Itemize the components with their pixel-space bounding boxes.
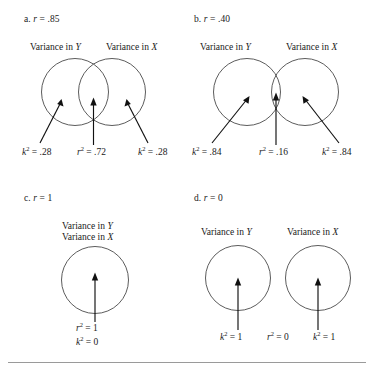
panel-b-value-left-eq: = .84 — [202, 147, 222, 157]
panel-d-arrow-right — [315, 278, 321, 331]
panel-b-value-right: k2 = .84 — [322, 147, 351, 157]
panel-a: a. r = .85 Variance in Y Variance in X — [0, 0, 187, 185]
panel-b-arrow-right — [303, 96, 340, 143]
panel-c-venn-graphic — [0, 185, 187, 335]
panel-c-value-bottom-exp: 2 — [80, 335, 83, 342]
panel-a-value-center-exp: 2 — [81, 145, 84, 152]
panel-a-venn-graphic — [0, 0, 187, 160]
panel-b-circle-x — [272, 59, 339, 126]
panel-d-value-center: r2 = 0 — [267, 332, 289, 342]
panel-b-value-left-exp: 2 — [196, 145, 199, 152]
panel-b-value-center-exp: 2 — [263, 145, 266, 152]
panel-b-circle-y — [214, 59, 281, 126]
panel-d-arrow-left — [235, 278, 241, 331]
panel-a-circle-y — [42, 59, 109, 126]
panel-b-arrow-left — [212, 96, 250, 143]
panel-a-value-left: k2 = .28 — [22, 147, 51, 157]
panel-b-value-right-exp: 2 — [326, 145, 329, 152]
panel-a-value-left-eq: = .28 — [32, 147, 52, 157]
panel-b-value-center-eq: = .16 — [268, 147, 288, 157]
panel-b-arrow-center — [273, 93, 279, 146]
panel-d-value-center-eq: = 0 — [276, 332, 288, 342]
panel-a-value-right-exp: 2 — [142, 145, 145, 152]
panel-a-circle-x — [79, 59, 146, 126]
panel-b-venn-graphic — [187, 0, 374, 160]
bottom-divider-rule — [8, 362, 366, 363]
panel-b-value-left: k2 = .84 — [192, 147, 221, 157]
panel-c-value-top-eq: = 1 — [85, 323, 97, 333]
venn-figure: a. r = .85 Variance in Y Variance in X — [0, 0, 374, 370]
panel-c: c. r = 1 Variance in Y Variance in X r2 … — [0, 185, 187, 370]
panel-c-value-top-exp: 2 — [80, 321, 83, 328]
panel-c-value-bottom-eq: = 0 — [86, 337, 98, 347]
panel-a-arrow-left — [40, 99, 64, 143]
panel-d-value-left-exp: 2 — [224, 330, 227, 337]
panel-d-venn-graphic — [187, 185, 374, 345]
panel-d-value-right-exp: 2 — [317, 330, 320, 337]
panel-c-arrow-center — [92, 273, 98, 323]
panel-c-value-top: r2 = 1 — [76, 323, 98, 333]
panel-d-value-right: k2 = 1 — [313, 332, 335, 342]
panel-c-value-bottom: k2 = 0 — [76, 337, 98, 347]
panel-d-value-right-eq: = 1 — [323, 332, 335, 342]
panel-a-value-right-eq: = .28 — [148, 147, 168, 157]
panel-a-value-right: k2 = .28 — [138, 147, 167, 157]
panel-a-value-center-eq: = .72 — [86, 147, 106, 157]
panel-a-value-center: r2 = .72 — [77, 147, 106, 157]
panel-b: b. r = .40 Variance in Y Variance in X — [187, 0, 374, 185]
panel-d-value-center-exp: 2 — [271, 330, 274, 337]
panel-b-value-right-eq: = .84 — [332, 147, 352, 157]
panel-d: d. r = 0 Variance in Y Variance in X — [187, 185, 374, 370]
panel-b-value-center: r2 = .16 — [259, 147, 288, 157]
panel-d-value-left-eq: = 1 — [230, 332, 242, 342]
panel-d-value-left: k2 = 1 — [220, 332, 242, 342]
panel-a-value-left-exp: 2 — [26, 145, 29, 152]
